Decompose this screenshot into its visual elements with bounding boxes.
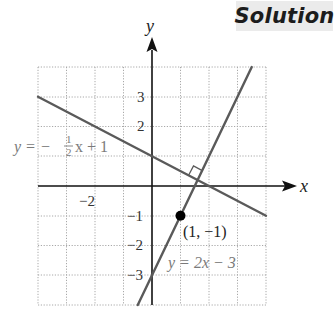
eq1-numerator: 1 <box>66 133 72 145</box>
tick-y-neg2: −2 <box>127 237 143 253</box>
svg-text:y = −: y = − <box>12 138 51 156</box>
eq1-suffix: x + 1 <box>75 138 108 155</box>
eq1-prefix: y = − <box>12 138 51 156</box>
y-axis-arrow-icon <box>147 37 158 52</box>
equation-label-line2: y = 2x − 3 <box>166 254 236 272</box>
tick-y-neg1: −1 <box>127 208 143 224</box>
point-label: (1, −1) <box>183 223 227 241</box>
x-axis-label: x <box>299 176 308 196</box>
eq1-denominator: 2 <box>66 146 72 158</box>
y-axis-label: y <box>144 16 154 36</box>
tick-y-neg3: −3 <box>127 267 143 283</box>
point-1-neg1 <box>176 211 186 221</box>
equation-label-line1: y = − 1 2 x + 1 <box>12 133 108 158</box>
tick-y-3: 3 <box>137 89 145 105</box>
tick-x-neg2: −2 <box>79 193 95 209</box>
tick-y-2: 2 <box>137 118 145 134</box>
